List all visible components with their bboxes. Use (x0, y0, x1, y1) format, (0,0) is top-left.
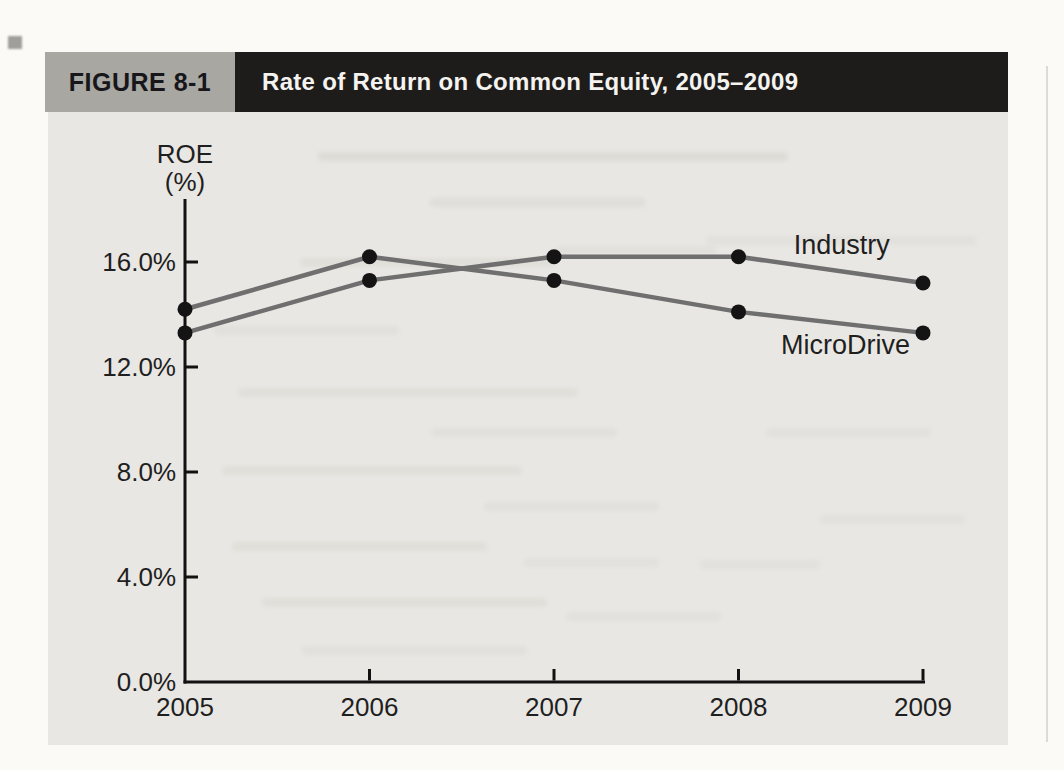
y-tick-label: 12.0% (102, 352, 176, 382)
microdrive-point-2008 (731, 304, 746, 319)
y-axis-title-line1: ROE (125, 140, 245, 168)
x-tick-label: 2006 (341, 692, 399, 722)
y-tick-label: 4.0% (117, 562, 176, 592)
scan-artifact (8, 36, 22, 49)
microdrive-point-2006 (362, 249, 377, 264)
microdrive-point-2005 (178, 302, 193, 317)
y-axis-title-line2: (%) (125, 168, 245, 196)
figure-label: FIGURE 8-1 (69, 68, 212, 97)
microdrive-series-label: MicroDrive (781, 330, 910, 360)
microdrive-point-2007 (547, 273, 562, 288)
x-tick-label: 2009 (894, 692, 952, 722)
microdrive-point-2009 (916, 325, 931, 340)
industry-point-2009 (916, 276, 931, 291)
industry-series-label: Industry (794, 230, 891, 260)
industry-point-2005 (178, 325, 193, 340)
x-tick-label: 2005 (156, 692, 214, 722)
industry-point-2006 (362, 273, 377, 288)
roe-line-chart: 0.0%4.0%8.0%12.0%16.0%200520062007200820… (0, 0, 1064, 770)
x-tick-label: 2007 (525, 692, 583, 722)
figure-label-box: FIGURE 8-1 (45, 52, 235, 112)
textbook-page: FIGURE 8-1 Rate of Return on Common Equi… (0, 0, 1064, 770)
industry-point-2008 (731, 249, 746, 264)
y-tick-label: 8.0% (117, 457, 176, 487)
y-tick-label: 16.0% (102, 247, 176, 277)
y-axis-title: ROE (%) (125, 140, 245, 196)
industry-point-2007 (547, 249, 562, 264)
x-tick-label: 2008 (710, 692, 768, 722)
figure-title: Rate of Return on Common Equity, 2005–20… (235, 68, 798, 96)
figure-title-bar: Rate of Return on Common Equity, 2005–20… (235, 52, 1008, 112)
